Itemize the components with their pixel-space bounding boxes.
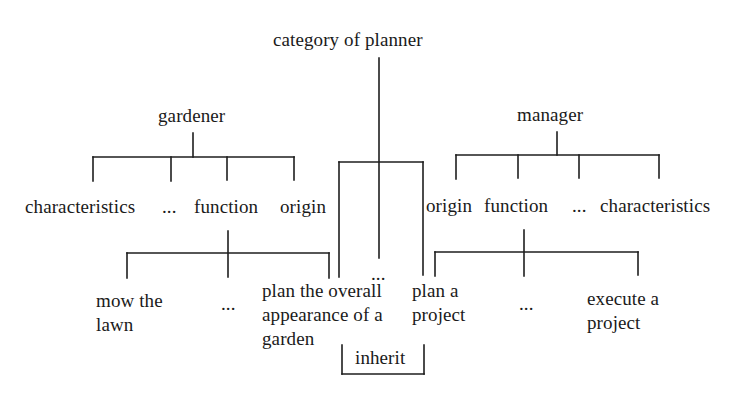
root-node-title: category of planner <box>273 28 423 52</box>
manager-func-plan-project: plan a project <box>412 279 465 327</box>
gardener-func-ellipsis: ... <box>221 292 236 316</box>
gardener-func-mow-lawn: mow the lawn <box>96 289 163 337</box>
manager-func-execute-project: execute a project <box>587 287 659 335</box>
line: project <box>587 311 659 335</box>
manager-func-ellipsis: ... <box>519 292 534 316</box>
manager-attr-function: function <box>484 194 548 218</box>
line: appearance of a <box>262 303 383 327</box>
line: lawn <box>96 313 163 337</box>
manager-node: manager <box>517 103 583 127</box>
gardener-attr-function: function <box>194 195 258 219</box>
line: plan the overall <box>262 279 383 303</box>
gardener-node: gardener <box>158 104 225 128</box>
gardener-func-plan-appearance: plan the overall appearance of a garden <box>262 279 383 351</box>
manager-attr-characteristics: characteristics <box>600 194 710 218</box>
line: project <box>412 303 465 327</box>
gardener-attr-ellipsis: ... <box>162 195 177 219</box>
manager-attr-origin: origin <box>426 194 472 218</box>
line: mow the <box>96 289 163 313</box>
planner-category-diagram: category of planner gardener characteris… <box>0 0 754 400</box>
line: plan a <box>412 279 465 303</box>
inherit-label: inherit <box>355 346 405 370</box>
line: execute a <box>587 287 659 311</box>
gardener-attr-origin: origin <box>280 195 326 219</box>
manager-attr-ellipsis: ... <box>572 194 587 218</box>
gardener-attr-characteristics: characteristics <box>25 195 135 219</box>
